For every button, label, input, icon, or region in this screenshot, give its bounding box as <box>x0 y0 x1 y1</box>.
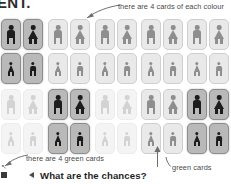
pictogram-card[interactable] <box>1 89 21 120</box>
female-figure-icon <box>28 95 39 114</box>
female-figure-icon <box>122 25 133 44</box>
card-grid <box>0 19 231 157</box>
pictogram-card[interactable] <box>48 89 68 120</box>
male-figure-icon <box>123 132 131 146</box>
male-figure-icon <box>169 62 177 76</box>
female-figure-icon <box>54 62 62 76</box>
female-figure-icon <box>193 132 201 146</box>
pictogram-card[interactable] <box>141 53 161 84</box>
male-figure-icon <box>169 132 177 146</box>
footer-triangle-icon <box>29 172 34 178</box>
female-figure-icon <box>214 25 225 44</box>
pictogram-card[interactable] <box>187 53 207 84</box>
female-figure-icon <box>214 95 225 114</box>
pictogram-card[interactable] <box>117 123 137 154</box>
pictogram-card[interactable] <box>95 123 115 154</box>
pictogram-card[interactable] <box>209 53 229 84</box>
pictogram-card[interactable] <box>95 53 115 84</box>
annotation-bottom-left: there are 4 green cards <box>26 154 104 163</box>
male-figure-icon <box>53 25 64 44</box>
callout-arrow-top-icon <box>82 3 122 25</box>
pictogram-card[interactable] <box>1 19 21 50</box>
male-figure-icon <box>76 62 84 76</box>
female-figure-icon <box>147 132 155 146</box>
pictogram-card[interactable] <box>163 19 183 50</box>
pictogram-card[interactable] <box>70 53 90 84</box>
pictogram-card[interactable] <box>1 123 21 154</box>
pictogram-card[interactable] <box>48 53 68 84</box>
female-figure-icon <box>75 25 86 44</box>
pictogram-card[interactable] <box>187 19 207 50</box>
male-figure-icon <box>100 95 111 114</box>
female-figure-icon <box>193 62 201 76</box>
male-figure-icon <box>146 95 157 114</box>
male-figure-icon <box>215 62 223 76</box>
female-figure-icon <box>101 132 109 146</box>
pictogram-card[interactable] <box>23 19 43 50</box>
pictogram-card[interactable] <box>70 89 90 120</box>
pictogram-card[interactable] <box>23 53 43 84</box>
pictogram-card[interactable] <box>1 53 21 84</box>
female-figure-icon <box>7 132 15 146</box>
female-figure-icon <box>168 25 179 44</box>
annotation-bottom-right: green cards <box>172 163 212 172</box>
male-figure-icon <box>29 62 37 76</box>
male-figure-icon <box>100 25 111 44</box>
pictogram-card[interactable] <box>117 89 137 120</box>
female-figure-icon <box>7 62 15 76</box>
card-row <box>0 53 231 85</box>
page-title: ENT. <box>0 0 31 11</box>
pictogram-card[interactable] <box>95 89 115 120</box>
male-figure-icon <box>76 132 84 146</box>
pictogram-card[interactable] <box>209 123 229 154</box>
footer-bullet-icon <box>1 172 7 178</box>
pictogram-card[interactable] <box>117 53 137 84</box>
male-figure-icon <box>215 132 223 146</box>
pictogram-card[interactable] <box>48 123 68 154</box>
female-figure-icon <box>101 62 109 76</box>
male-figure-icon <box>6 25 17 44</box>
footer-heading: What are the chances? <box>40 170 147 181</box>
male-figure-icon <box>6 95 17 114</box>
female-figure-icon <box>54 132 62 146</box>
pictogram-card[interactable] <box>187 89 207 120</box>
pictogram-card[interactable] <box>163 53 183 84</box>
pictogram-card[interactable] <box>141 89 161 120</box>
male-figure-icon <box>123 62 131 76</box>
pictogram-card[interactable] <box>23 89 43 120</box>
male-figure-icon <box>29 132 37 146</box>
annotation-top-right: there are 4 cards of each colour <box>118 2 224 11</box>
female-figure-icon <box>147 62 155 76</box>
pictogram-card[interactable] <box>163 89 183 120</box>
pictogram-card[interactable] <box>141 19 161 50</box>
card-row <box>0 89 231 121</box>
male-figure-icon <box>192 25 203 44</box>
male-figure-icon <box>192 95 203 114</box>
footer-caret-icon: ↖ <box>1 163 7 171</box>
male-figure-icon <box>53 95 64 114</box>
card-row <box>0 123 231 155</box>
male-figure-icon <box>146 25 157 44</box>
callout-arrow-bottom-right-icon <box>152 145 174 169</box>
pictogram-card[interactable] <box>209 89 229 120</box>
pictogram-card[interactable] <box>23 123 43 154</box>
pictogram-card[interactable] <box>70 123 90 154</box>
female-figure-icon <box>28 25 39 44</box>
female-figure-icon <box>75 95 86 114</box>
pictogram-card[interactable] <box>48 19 68 50</box>
pictogram-card[interactable] <box>187 123 207 154</box>
female-figure-icon <box>168 95 179 114</box>
pictogram-card[interactable] <box>209 19 229 50</box>
female-figure-icon <box>122 95 133 114</box>
